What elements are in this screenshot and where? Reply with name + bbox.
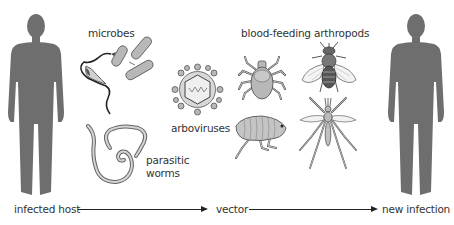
- flea-icon: [232, 112, 292, 160]
- mosquito-icon: [296, 98, 360, 172]
- arboviruses-label: arboviruses: [171, 122, 230, 134]
- fly-icon: [300, 42, 358, 100]
- arrow-head-icon: [371, 206, 378, 212]
- arrow-head-icon: [201, 206, 208, 212]
- parasitic-worms-label-line1: parasitic: [146, 154, 189, 166]
- infected-host-silhouette-icon: [6, 12, 66, 197]
- vector-label: vector: [216, 203, 248, 215]
- tick-icon: [237, 55, 287, 105]
- new-infection-silhouette-icon: [386, 12, 446, 197]
- arbovirus-icon: [170, 62, 225, 117]
- parasitic-worms-label-line2: worms: [146, 167, 180, 179]
- arthropods-label: blood-feeding arthropods: [241, 27, 369, 39]
- rod-bacteria-icon: [115, 35, 175, 80]
- arrow-vector-to-new-infection: [249, 209, 372, 210]
- infected-host-label: infected host: [14, 203, 80, 215]
- new-infection-label: new infection: [382, 203, 450, 215]
- arrow-host-to-vector: [78, 209, 202, 210]
